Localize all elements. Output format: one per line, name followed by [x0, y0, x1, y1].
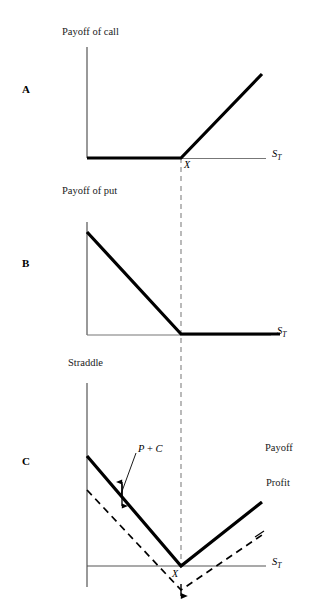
premium-operator: +	[144, 443, 155, 454]
panel-c-payoff-label: Payoff	[265, 442, 293, 453]
panel-c-payoff-curve	[87, 456, 262, 566]
panel-c-profit-label: Profit	[266, 477, 290, 488]
panel-a-strike-label: X	[184, 159, 190, 170]
figure-canvas	[0, 0, 321, 611]
panel-c-premium-leader-line	[121, 453, 136, 494]
panel-a-y-axis-title: Payoff of call	[62, 26, 119, 37]
panel-a-call-payoff-curve	[87, 74, 262, 158]
panel-letter-a: A	[22, 83, 30, 95]
panel-b-y-axis-title: Payoff of put	[62, 185, 117, 196]
panel-b-plot	[87, 222, 280, 335]
panel-a-x-axis-title: ST	[272, 148, 281, 162]
panel-c-premium-annotation: P + C	[138, 443, 163, 454]
panel-letter-b: B	[22, 257, 30, 269]
panel-c-strike-label: X	[172, 568, 178, 579]
panel-c-x-axis-subscript: T	[277, 561, 281, 570]
panel-c-plot	[87, 383, 266, 596]
panel-c-x-axis-title: ST	[272, 556, 281, 570]
panel-a-x-axis-subscript: T	[277, 153, 281, 162]
panel-letter-c: C	[22, 455, 30, 467]
straddle-payoff-figure: A B C Payoff of call X ST Payoff of put …	[0, 0, 321, 611]
panel-c-y-axis-title: Straddle	[68, 357, 103, 368]
panel-b-x-axis-title: ST	[277, 325, 286, 339]
panel-b-put-payoff-curve	[87, 232, 280, 334]
premium-c-symbol: C	[156, 443, 163, 454]
panel-a-plot	[87, 47, 266, 159]
panel-b-x-axis-subscript: T	[282, 330, 286, 339]
